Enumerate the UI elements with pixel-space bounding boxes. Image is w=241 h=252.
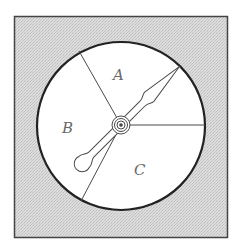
section-label-c: C: [134, 161, 146, 179]
hub-icon: [112, 116, 130, 134]
section-label-b: B: [61, 119, 73, 137]
section-label-a: A: [111, 66, 124, 84]
spinner-diagram: A B C: [0, 0, 241, 252]
